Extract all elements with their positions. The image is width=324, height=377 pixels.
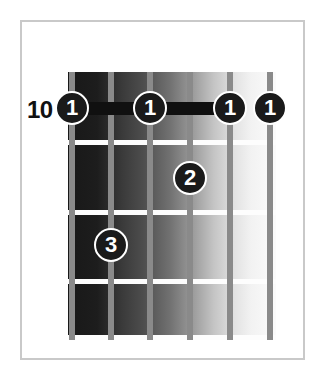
finger-marker-string2-finger3[interactable]: 3 xyxy=(94,228,128,262)
finger-marker-string1-finger1[interactable]: 1 xyxy=(55,91,89,125)
fret-line-1 xyxy=(68,140,276,145)
fret-line-4 xyxy=(68,335,276,340)
finger-marker-string4-finger2[interactable]: 2 xyxy=(173,161,207,195)
fret-line-3 xyxy=(68,279,276,284)
finger-marker-string5-finger1[interactable]: 1 xyxy=(213,91,247,125)
finger-marker-string6-finger1[interactable]: 1 xyxy=(253,91,287,125)
start-fret-number: 10 xyxy=(27,96,53,124)
finger-marker-string3-finger1[interactable]: 1 xyxy=(133,91,167,125)
chord-diagram: 1 1 1 1 2 3 10 xyxy=(0,0,324,377)
fret-line-2 xyxy=(68,210,276,215)
